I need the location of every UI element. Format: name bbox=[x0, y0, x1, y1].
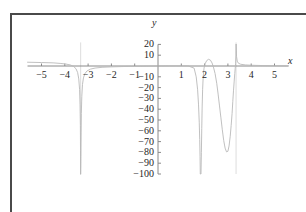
x-tick-label: −3 bbox=[79, 69, 97, 80]
y-tick-label: −30 bbox=[116, 92, 154, 103]
x-tick-label: 2 bbox=[196, 69, 214, 80]
figure-canvas: x y −5−4−3−2−1123452010−10−20−30−40−50−6… bbox=[0, 0, 306, 212]
x-tick-label: 1 bbox=[172, 69, 190, 80]
y-tick-label: −100 bbox=[116, 168, 154, 179]
x-tick-label: −5 bbox=[33, 69, 51, 80]
y-tick-label: −40 bbox=[116, 103, 154, 114]
y-tick-label: −10 bbox=[116, 71, 154, 82]
x-tick-label: 3 bbox=[219, 69, 237, 80]
y-tick-label: −60 bbox=[116, 125, 154, 136]
curve-right-branch-upper bbox=[236, 44, 288, 65]
x-tick-label: −4 bbox=[56, 69, 74, 80]
x-axis-label: x bbox=[288, 55, 292, 66]
x-tick-label: 4 bbox=[242, 69, 260, 80]
y-tick-label: −80 bbox=[116, 146, 154, 157]
x-tick-label: 5 bbox=[266, 69, 284, 80]
y-tick-label: −70 bbox=[116, 136, 154, 147]
y-tick-label: −90 bbox=[116, 157, 154, 168]
y-axis-label: y bbox=[152, 17, 156, 28]
y-tick-label: 20 bbox=[116, 38, 154, 49]
y-tick-label: 10 bbox=[116, 49, 154, 60]
y-tick-label: −20 bbox=[116, 82, 154, 93]
y-tick-label: −50 bbox=[116, 114, 154, 125]
